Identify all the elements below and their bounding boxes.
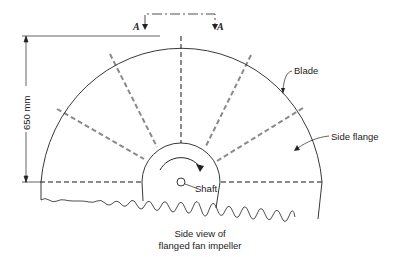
rotation-arrow-icon [160,158,200,170]
shaft-label: Shaft [195,183,218,194]
section-line-a-a [142,14,218,30]
shaft-icon [177,178,185,186]
caption-line-2: flanged fan impeller [130,240,270,252]
caption-line-1: Side view of [130,228,270,240]
dimension-line [22,36,160,183]
fan-impeller-diagram: A A 650 mm Shaft Blade Side flange [0,0,398,257]
section-label-right: A [216,21,224,32]
figure-caption: Side view of flanged fan impeller [130,228,270,252]
break-line [41,199,295,222]
hub [142,143,220,208]
blades [40,36,322,182]
side-flange-label: Side flange [331,131,379,142]
dimension-label: 650 mm [21,96,32,130]
blade-label: Blade [294,65,318,76]
section-label-left: A [132,21,140,32]
